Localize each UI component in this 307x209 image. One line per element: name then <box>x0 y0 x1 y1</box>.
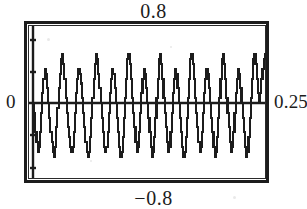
plot-canvas <box>0 0 307 209</box>
figure-panel: 0.8 −0.8 0 0.25 <box>0 0 307 209</box>
signal-waveform <box>33 54 266 156</box>
